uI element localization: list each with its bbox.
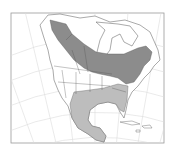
range-map (0, 0, 175, 151)
